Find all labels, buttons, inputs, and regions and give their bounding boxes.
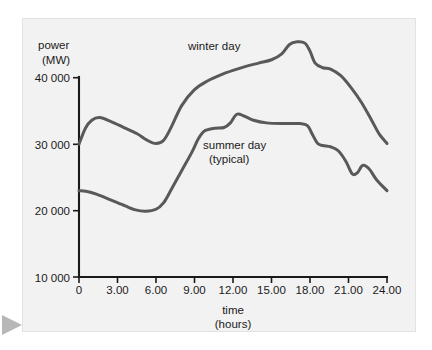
y-tick-label: 40 000 bbox=[35, 72, 70, 84]
x-tick-label: 15.00 bbox=[257, 284, 286, 296]
y-axis-unit: (MW) bbox=[42, 54, 70, 66]
winter-day-annotation: winter day bbox=[187, 40, 241, 52]
x-tick-label: 9.00 bbox=[183, 284, 205, 296]
x-tick-label: 21.00 bbox=[334, 284, 363, 296]
x-tick-label: 18.00 bbox=[296, 284, 325, 296]
summer-day-annotation-line1: summer day bbox=[203, 139, 267, 151]
left-pointer-arrow bbox=[2, 315, 22, 335]
y-tick-label: 10 000 bbox=[35, 272, 70, 284]
y-tick-label: 20 000 bbox=[35, 205, 70, 217]
axes bbox=[79, 77, 387, 277]
x-tick-label: 12.00 bbox=[219, 284, 248, 296]
power-demand-line-chart: 40 000 30 000 20 000 10 000 0 3.00 6.00 … bbox=[0, 0, 432, 350]
y-axis-ticks: 40 000 30 000 20 000 10 000 bbox=[35, 72, 79, 284]
x-axis-title: time bbox=[222, 304, 244, 316]
x-axis-ticks: 0 3.00 6.00 9.00 12.00 15.00 18.00 21.00… bbox=[76, 277, 402, 296]
x-tick-label: 3.00 bbox=[106, 284, 128, 296]
y-axis-title: power bbox=[38, 39, 69, 51]
x-tick-label: 0 bbox=[76, 284, 82, 296]
summer-day-annotation-line2: (typical) bbox=[209, 153, 249, 165]
winter-day-curve bbox=[79, 42, 387, 144]
y-tick-label: 30 000 bbox=[35, 139, 70, 151]
x-tick-label: 24.00 bbox=[373, 284, 402, 296]
x-axis-unit: (hours) bbox=[215, 318, 252, 330]
x-tick-label: 6.00 bbox=[145, 284, 167, 296]
